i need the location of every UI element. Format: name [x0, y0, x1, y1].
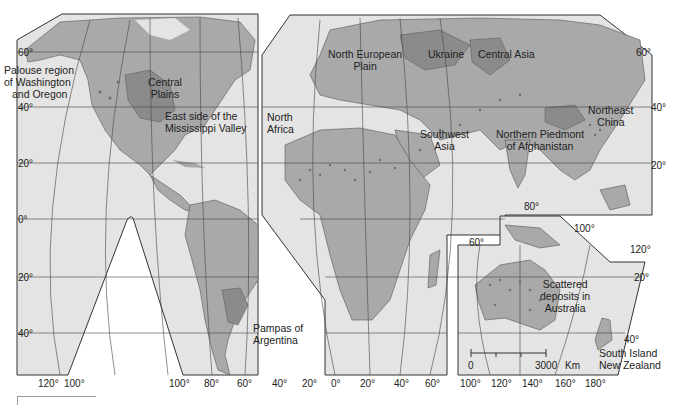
scale-end-label: 3000 [535, 360, 557, 371]
label-line: Northeast [588, 104, 634, 116]
label-northeast-china: Northeast China [588, 104, 634, 128]
label-line: Africa [267, 123, 294, 135]
lat-label: 20° [634, 272, 649, 283]
label-new-zealand: South Island New Zealand [599, 347, 661, 371]
label-line: of Washington [4, 76, 74, 88]
lon-label: 60° [237, 378, 252, 389]
lon-label: 60° [469, 237, 484, 248]
label-line: of Afghanistan [496, 140, 584, 152]
lat-label: 20° [18, 272, 33, 283]
label-afghanistan: Northern Piedmont of Afghanistan [496, 128, 584, 152]
label-line: Central Asia [478, 48, 535, 60]
lat-label: 40° [624, 334, 639, 345]
caption-frame [17, 396, 96, 405]
label-line: Southwest [420, 128, 469, 140]
label-line: and Oregon [4, 88, 74, 100]
label-line: North European [328, 48, 402, 60]
lon-label: 180° [585, 378, 606, 389]
label-line: Northern Piedmont [496, 128, 584, 140]
lon-label: 140° [522, 378, 543, 389]
label-line: Australia [540, 302, 590, 314]
lon-label: 20° [360, 378, 375, 389]
label-line: Central [148, 76, 182, 88]
label-line: Mississippi Valley [165, 122, 247, 134]
lat-label: 60° [636, 47, 651, 58]
lat-label: 20° [651, 160, 666, 171]
scale-unit-label: Km [565, 360, 580, 371]
label-palouse: Palouse region of Washington and Oregon [4, 64, 74, 100]
lat-label: 60° [18, 47, 33, 58]
lon-label: 160° [555, 378, 576, 389]
label-line: Scattered [540, 278, 590, 290]
lon-label: 100° [169, 378, 190, 389]
lon-label: 20° [302, 378, 317, 389]
label-line: East side of the [165, 110, 247, 122]
label-line: South Island [599, 347, 661, 359]
lon-label: 0° [331, 378, 341, 389]
label-ukraine: Ukraine [428, 48, 464, 60]
lon-label: 40° [272, 378, 287, 389]
lon-label: 100° [574, 223, 595, 234]
label-line: New Zealand [599, 359, 661, 371]
label-line: Ukraine [428, 48, 464, 60]
lat-label: 40° [18, 102, 33, 113]
label-southwest-asia: Southwest Asia [420, 128, 469, 152]
lat-label: 40° [651, 102, 666, 113]
lon-label: 120° [630, 244, 651, 255]
label-line: Palouse region [4, 64, 74, 76]
lon-label: 120° [491, 378, 512, 389]
label-line: Pampas of [253, 322, 303, 334]
lon-label: 60° [425, 378, 440, 389]
label-north-africa: North Africa [267, 111, 294, 135]
label-line: Asia [420, 140, 469, 152]
lat-label: 0° [18, 214, 28, 225]
label-line: North [267, 111, 294, 123]
label-line: Plains [148, 88, 182, 100]
label-central-asia: Central Asia [478, 48, 535, 60]
lon-label: 80° [524, 201, 539, 212]
lat-label: 20° [18, 158, 33, 169]
label-australia: Scattered deposits in Australia [540, 278, 590, 314]
label-central-plains: Central Plains [148, 76, 182, 100]
label-mississippi: East side of the Mississippi Valley [165, 110, 247, 134]
scale-start-label: 0 [468, 360, 474, 371]
lon-label: 100° [460, 378, 481, 389]
lon-label: 120° [38, 378, 59, 389]
label-line: Argentina [253, 334, 303, 346]
lon-label: 100° [64, 378, 85, 389]
lon-label: 40° [394, 378, 409, 389]
label-pampas: Pampas of Argentina [253, 322, 303, 346]
label-line: Plain [328, 60, 402, 72]
label-north-european-plain: North European Plain [328, 48, 402, 72]
lon-label: 80° [204, 378, 219, 389]
label-line: deposits in [540, 290, 590, 302]
lat-label: 40° [18, 328, 33, 339]
label-line: China [588, 116, 634, 128]
